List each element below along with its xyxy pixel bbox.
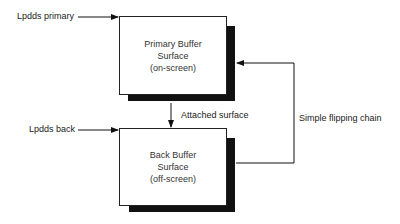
flipping-chain-label: Simple flipping chain bbox=[299, 113, 382, 123]
back-line-1: Back Buffer bbox=[150, 149, 196, 161]
back-line-2: Surface bbox=[150, 161, 196, 173]
lpdds-primary-label: Lpdds primary bbox=[17, 11, 74, 21]
primary-line-3: (on-screen) bbox=[144, 62, 201, 74]
primary-buffer-surface: Primary Buffer Surface (on-screen) bbox=[119, 16, 227, 95]
lpdds-back-label: Lpdds back bbox=[29, 124, 75, 134]
back-line-3: (off-screen) bbox=[150, 173, 196, 185]
primary-line-2: Surface bbox=[144, 50, 201, 62]
attached-surface-label: Attached surface bbox=[181, 110, 249, 120]
back-buffer-surface: Back Buffer Surface (off-screen) bbox=[119, 128, 227, 206]
primary-line-1: Primary Buffer bbox=[144, 38, 201, 50]
